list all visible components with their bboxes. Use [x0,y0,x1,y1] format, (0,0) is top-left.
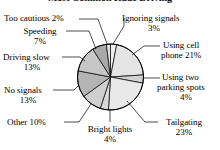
label-parking-spots-value: 4% [157,92,215,103]
label-cell-phone-line2: phone 21% [161,50,201,61]
label-no-signals-value: 13% [4,95,52,106]
label-cell-phone-line1: Using cell [163,40,199,51]
label-driving-slow-name: Driving slow [3,52,50,63]
pie-chart-figure: Most Common Rude Driving To [0,0,220,150]
pie-slice [108,77,142,110]
label-no-signals-name: No signals [4,85,42,96]
leader-other [64,104,91,122]
label-parking-spots-line1: Using two [162,72,199,83]
leader-no-signals [53,85,79,90]
label-parking-spots-line2: parking spots [157,82,205,93]
leader-speeding [66,31,96,49]
label-speeding-value: 7% [12,36,68,47]
label-tailgating-value: 23% [157,127,211,138]
leader-cell-phone [132,46,160,55]
label-other: Other 10% [7,117,46,128]
leader-tailgating [127,101,158,122]
label-tailgating-name: Tailgating [157,117,211,128]
label-ignoring-signals-name: Ignoring signals [122,13,179,24]
label-bright-lights-name: Bright lights [83,124,137,135]
label-driving-slow-value: 13% [3,62,61,73]
pie-slice [111,45,144,77]
label-ignoring-signals-value: 3% [122,23,186,34]
label-too-cautious: Too cautious 2% [4,13,64,24]
label-speeding-name: Speeding [12,26,68,37]
label-bright-lights-value: 4% [83,134,137,145]
